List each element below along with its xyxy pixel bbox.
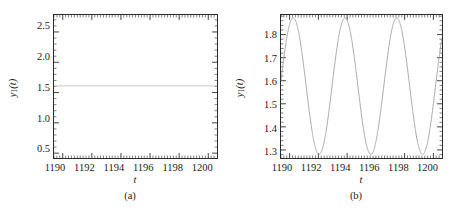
- y-axis-label-subscript: 1: [10, 89, 19, 93]
- xtick-label: 1200: [192, 162, 213, 173]
- ytick-label: 2.0: [22, 51, 50, 62]
- x-axis-label-a: t: [134, 174, 137, 185]
- panel-b: 1.3 1.4 1.5 1.6 1.7 1.8 1190 1192 1194 1…: [229, 0, 458, 213]
- panel-caption-b: (b): [350, 190, 362, 201]
- y-axis-label-argument: (t): [234, 79, 245, 89]
- panel-a: 0.5 1.0 1.5 2.0 2.5 1190 1192 1194 1196 …: [0, 0, 229, 213]
- xtick-label: 1190: [45, 162, 66, 173]
- x-axis-label-b: t: [360, 174, 363, 185]
- xtick-label: 1194: [330, 162, 351, 173]
- xtick-label: 1200: [417, 162, 438, 173]
- xtick-label: 1196: [359, 162, 380, 173]
- y-axis-label-base: y: [7, 93, 18, 98]
- ytick-label: 1.4: [249, 122, 277, 133]
- xtick-label: 1196: [133, 162, 154, 173]
- plot-frame-a: [53, 14, 218, 159]
- y-axis-label-a: y1(t): [7, 79, 20, 97]
- ytick-label: 1.3: [249, 146, 277, 157]
- xtick-label: 1192: [301, 162, 322, 173]
- xtick-label: 1194: [104, 162, 125, 173]
- ytick-label: 1.0: [22, 112, 50, 123]
- ytick-label: 1.5: [249, 99, 277, 110]
- xtick-label: 1198: [162, 162, 183, 173]
- ytick-label: 1.5: [22, 81, 50, 92]
- xtick-label: 1198: [388, 162, 409, 173]
- panel-caption-a: (a): [124, 190, 136, 201]
- plot-area-b: [281, 15, 442, 158]
- ytick-label: 1.8: [249, 29, 277, 40]
- xtick-label: 1190: [272, 162, 293, 173]
- ytick-label: 1.7: [249, 52, 277, 63]
- figure-container: 0.5 1.0 1.5 2.0 2.5 1190 1192 1194 1196 …: [0, 0, 458, 213]
- ytick-label: 1.6: [249, 76, 277, 87]
- ytick-label: 2.5: [22, 20, 50, 31]
- xtick-label: 1192: [74, 162, 95, 173]
- y-axis-label-subscript: 1: [237, 89, 246, 93]
- y-axis-label-base: y: [234, 93, 245, 98]
- ytick-label: 0.5: [22, 143, 50, 154]
- plot-area-a: [54, 15, 217, 158]
- y-axis-label-argument: (t): [7, 79, 18, 89]
- plot-frame-b: [280, 14, 443, 159]
- y-axis-label-b: y1(t): [234, 79, 247, 97]
